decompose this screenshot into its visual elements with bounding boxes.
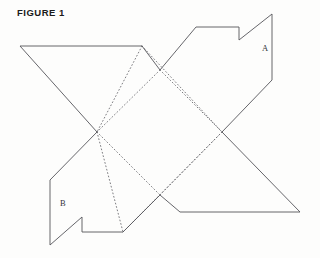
fold-top-left [97, 46, 142, 132]
fold-left-diagonal [97, 70, 160, 132]
figure-diagram: FIGURE 1 AB [0, 0, 320, 258]
panel-label-b: B [60, 198, 66, 208]
fold-upper-diagonal [160, 70, 222, 132]
fold-bottom-left [97, 132, 160, 195]
fold-lines-group [97, 46, 222, 232]
cut-outline-polygon [20, 14, 300, 245]
cut-outline-group [20, 14, 300, 245]
net-diagram-canvas: AB [0, 0, 320, 258]
fold-top-right [142, 46, 222, 132]
fold-lower-left-diagonal [97, 132, 123, 232]
fold-bottom-right [160, 132, 222, 195]
panel-label-a: A [262, 43, 269, 53]
